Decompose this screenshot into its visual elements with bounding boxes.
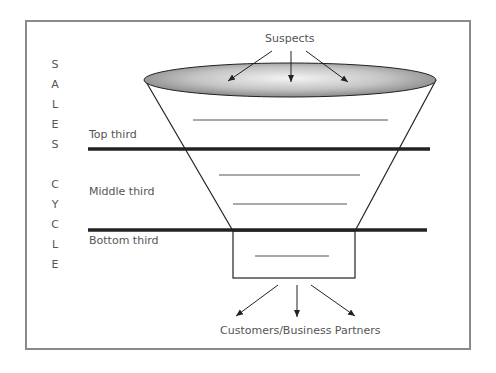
vertical-letter: S (50, 58, 60, 71)
customers-label: Customers/Business Partners (220, 324, 381, 337)
vertical-letter: C (50, 178, 60, 191)
vertical-letter: E (50, 118, 60, 131)
section-label-middle: Middle third (89, 185, 154, 198)
section-label-top: Top third (89, 128, 137, 141)
vertical-letter: C (50, 218, 60, 231)
vertical-letter: L (50, 98, 60, 111)
vertical-letter: L (50, 238, 60, 251)
section-label-bottom: Bottom third (89, 234, 159, 247)
vertical-letter: E (50, 258, 60, 271)
vertical-letter: Y (50, 198, 60, 211)
suspects-label: Suspects (265, 32, 315, 45)
vertical-letter: A (50, 78, 60, 91)
funnel-mouth-ellipse (144, 63, 436, 97)
funnel-right-side (355, 80, 436, 231)
funnel-graphic (0, 0, 496, 373)
funnel-left-side (145, 80, 233, 231)
vertical-letter: S (50, 138, 60, 151)
funnel-bottom-box (233, 231, 355, 278)
